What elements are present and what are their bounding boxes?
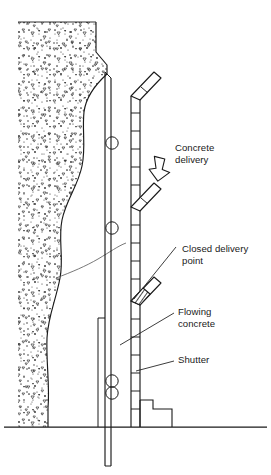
arrow-down-left-icon	[147, 155, 170, 183]
form-tie-circle	[106, 387, 118, 399]
label-closed-delivery-point-line2: point	[182, 255, 203, 266]
flowing-concrete-surface	[56, 243, 126, 278]
leader-lines	[120, 247, 176, 371]
form-tie-circles	[106, 137, 118, 399]
base-kicker-block	[140, 400, 172, 427]
diagram-canvas: Concrete delivery Closed delivery point …	[0, 0, 271, 475]
shutter-formwork	[98, 72, 111, 466]
closed-delivery-branch-lower	[131, 277, 161, 305]
label-closed-delivery-point-line1: Closed delivery	[182, 243, 248, 254]
form-tie-circle	[106, 137, 118, 149]
label-shutter-line1: Shutter	[178, 354, 210, 365]
open-delivery-branch-middle	[131, 183, 161, 211]
diagram-labels: Concrete delivery Closed delivery point …	[175, 142, 248, 365]
open-delivery-branch-upper	[131, 72, 161, 100]
placed-concrete-mass	[18, 22, 107, 427]
form-tie-circle	[106, 375, 118, 387]
form-tie-circle	[106, 222, 118, 234]
leader-flowing-concrete	[120, 313, 174, 345]
label-concrete-delivery-line2: delivery	[175, 154, 209, 165]
label-flowing-concrete-line1: Flowing	[178, 306, 211, 317]
label-flowing-concrete-line2: concrete	[178, 318, 215, 329]
leader-shutter	[136, 361, 174, 371]
concrete-delivery-diagram: Concrete delivery Closed delivery point …	[0, 0, 271, 475]
label-concrete-delivery-line1: Concrete	[175, 142, 214, 153]
segmented-delivery-pipe	[131, 96, 140, 427]
